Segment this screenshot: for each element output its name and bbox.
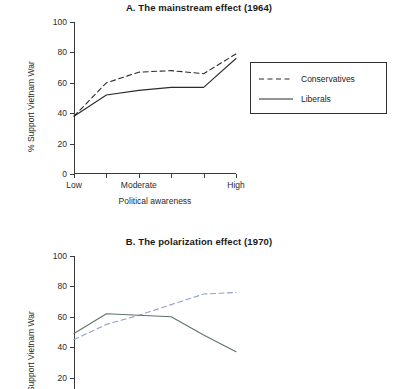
x-tick-label: Moderate bbox=[121, 180, 157, 190]
y-tick-label: 100 bbox=[53, 17, 67, 27]
legend-label: Conservatives bbox=[301, 74, 355, 84]
panel-b-title: B. The polarization effect (1970) bbox=[0, 236, 398, 247]
series-line-liberals bbox=[74, 58, 236, 116]
panel-b-series-lines bbox=[74, 256, 236, 389]
figure-root: A. The mainstream effect (1964) % Suppor… bbox=[0, 0, 398, 389]
series-line-liberals bbox=[74, 314, 236, 352]
y-tick-label: 40 bbox=[58, 342, 67, 352]
y-tick-label: 80 bbox=[58, 47, 67, 57]
legend-item-conservatives[interactable]: Conservatives bbox=[259, 74, 355, 84]
x-tick-label: Low bbox=[66, 180, 82, 190]
x-tick-mark bbox=[106, 174, 107, 178]
panel-polarization-effect: B. The polarization effect (1970) % Supp… bbox=[0, 232, 398, 389]
panel-a-plot-area: 020406080100 LowModerateHigh bbox=[74, 22, 236, 174]
panel-a-y-axis-label: % Support Vietnam War bbox=[26, 61, 36, 152]
y-tick-label: 60 bbox=[58, 312, 67, 322]
x-tick-mark bbox=[171, 174, 172, 178]
y-tick-label: 80 bbox=[58, 281, 67, 291]
x-tick-label: High bbox=[227, 180, 244, 190]
panel-a-series-lines bbox=[74, 22, 236, 174]
y-tick-label: 20 bbox=[58, 373, 67, 383]
legend-label: Liberals bbox=[301, 94, 331, 104]
panel-mainstream-effect: A. The mainstream effect (1964) % Suppor… bbox=[0, 0, 398, 240]
x-tick-mark bbox=[204, 174, 205, 178]
panel-a-x-axis-label: Political awareness bbox=[74, 196, 236, 206]
y-tick-label: 100 bbox=[53, 251, 67, 261]
panel-a-legend: ConservativesLiberals bbox=[250, 62, 387, 114]
x-tick-mark bbox=[74, 174, 75, 178]
x-tick-mark bbox=[139, 174, 140, 178]
panel-b-y-axis-label: % Support Vietnam War bbox=[26, 311, 36, 389]
y-tick-label: 0 bbox=[62, 169, 67, 179]
legend-item-liberals[interactable]: Liberals bbox=[259, 94, 331, 104]
y-tick-label: 60 bbox=[58, 78, 67, 88]
x-tick-mark bbox=[236, 174, 237, 178]
panel-a-title: A. The mainstream effect (1964) bbox=[0, 2, 398, 13]
y-tick-label: 20 bbox=[58, 139, 67, 149]
series-line-conservatives bbox=[74, 54, 236, 116]
panel-b-plot-area: 20406080100 bbox=[74, 256, 236, 389]
y-tick-label: 40 bbox=[58, 108, 67, 118]
